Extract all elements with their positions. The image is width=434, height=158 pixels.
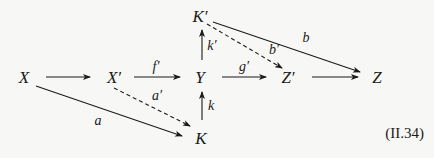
diagram-arrows (0, 0, 434, 158)
node-x-prime: X′ (107, 69, 121, 86)
node-x: X (19, 69, 29, 86)
node-k: K (195, 130, 206, 147)
node-y: Y (195, 69, 204, 86)
commutative-diagram: X X′ Y Z′ Z K′ K f′ g′ k′ k b b′ a a′ (I… (0, 0, 434, 158)
label-b-prime: b′ (269, 43, 279, 57)
label-k: k (208, 99, 214, 113)
equation-number: (II.34) (385, 126, 424, 141)
arrow-b (213, 22, 360, 72)
label-a: a (95, 114, 102, 128)
node-z: Z (372, 69, 381, 86)
label-f-prime: f′ (153, 60, 160, 74)
label-g-prime: g′ (239, 60, 249, 74)
label-k-prime: k′ (207, 39, 216, 53)
node-k-prime: K′ (192, 8, 207, 25)
label-b: b (303, 31, 310, 45)
node-z-prime: Z′ (281, 69, 294, 86)
label-a-prime: a′ (152, 89, 162, 103)
